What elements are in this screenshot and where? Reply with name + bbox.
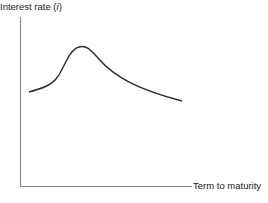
x-axis-label: Term to maturity [193, 180, 261, 191]
yield-curve-line [29, 46, 182, 101]
chart-plot [0, 0, 268, 203]
